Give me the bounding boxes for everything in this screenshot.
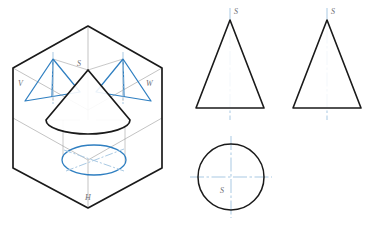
v-plane-label: V: [18, 79, 24, 88]
cone-apex-label-isometric: S: [77, 59, 81, 68]
isometric-projection-group: V W H S: [13, 26, 162, 208]
cone-solid-outline: [46, 70, 130, 134]
side-view-apex-label: S: [331, 7, 335, 16]
top-view-center-label: S: [220, 186, 224, 195]
front-view-triangle-outline: [196, 20, 264, 108]
h-plane-circle-projection: [62, 145, 126, 175]
front-view-group: S: [196, 7, 264, 120]
side-view-triangle-outline: [293, 20, 361, 108]
w-plane-label: W: [146, 79, 154, 88]
technical-drawing-canvas: V W H S S S S: [0, 0, 368, 239]
front-view-apex-label: S: [234, 7, 238, 16]
side-view-group: S: [293, 7, 361, 120]
h-plane-label: H: [84, 193, 92, 202]
top-view-group: S: [190, 136, 272, 218]
